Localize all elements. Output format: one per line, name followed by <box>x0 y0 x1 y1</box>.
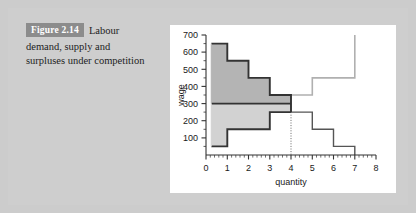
x-tick-label-1: 1 <box>225 163 230 173</box>
y-tick-label-700: 700 <box>183 30 198 40</box>
x-tick-label-5: 5 <box>310 163 315 173</box>
x-tick-label-0: 0 <box>203 163 208 173</box>
labour-market-chart: 700 600 500 400 300 200 100 <box>170 25 396 193</box>
supply-curve-light-segment <box>291 35 355 95</box>
y-tick-label-600: 600 <box>183 47 198 57</box>
x-tick-label-4: 4 <box>288 163 293 173</box>
page-background: Figure 2.14Labour demand, supply and sur… <box>0 0 416 213</box>
y-axis-title: wage <box>176 84 186 107</box>
y-tick-label-200: 200 <box>183 116 198 126</box>
y-axis-ticks <box>202 35 207 138</box>
x-tick-label-8: 8 <box>373 163 378 173</box>
chart-panel: 700 600 500 400 300 200 100 <box>170 25 396 193</box>
x-axis-title: quantity <box>275 177 307 187</box>
y-tick-label-100: 100 <box>183 133 198 143</box>
x-tick-label-3: 3 <box>267 163 272 173</box>
caption-body-text: demand, supply and surpluses under compe… <box>26 40 148 69</box>
x-tick-label-7: 7 <box>352 163 357 173</box>
x-tick-label-6: 6 <box>331 163 336 173</box>
worker-surplus-region <box>211 104 291 147</box>
caption-first-line: Figure 2.14Labour <box>26 21 152 39</box>
figure-number-badge: Figure 2.14 <box>26 23 84 37</box>
x-tick-label-2: 2 <box>246 163 251 173</box>
demand-curve-light-segment <box>291 112 355 155</box>
figure-caption: Figure 2.14Labour demand, supply and sur… <box>26 21 152 69</box>
caption-first-word: Labour <box>89 25 119 36</box>
y-tick-label-500: 500 <box>183 65 198 75</box>
